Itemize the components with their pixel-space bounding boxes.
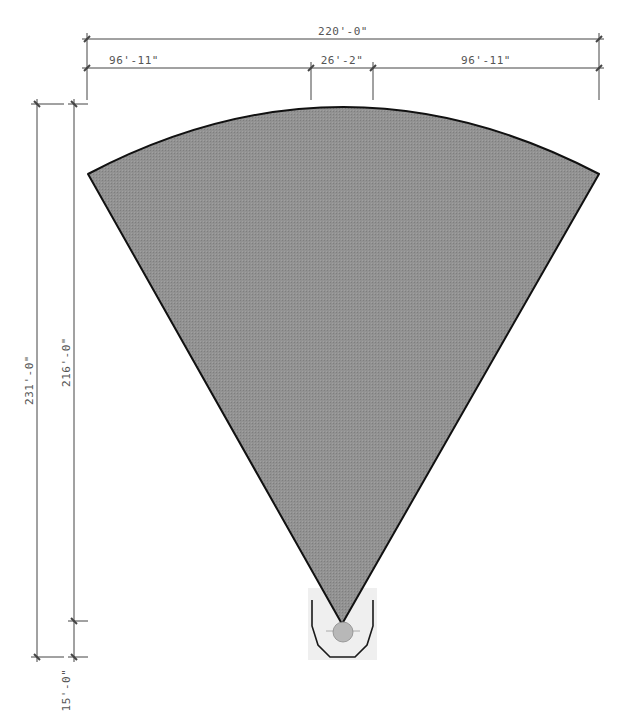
center-segment-label: 26'-2" — [321, 54, 364, 67]
left-segment-label: 96'-11" — [109, 54, 159, 67]
center-circle — [333, 622, 353, 642]
segment-width-dimension — [82, 62, 604, 100]
field-layout-drawing: 220'-0" 96'-11" 26'-2" 96'-11" 231'-0" 2… — [0, 0, 628, 725]
field-sector — [88, 107, 599, 624]
overall-length-label: 231'-0" — [23, 355, 36, 405]
right-segment-label: 96'-11" — [461, 54, 511, 67]
sector-length-label: 216'-0" — [60, 337, 73, 387]
pocket-length-label: 15'-0" — [60, 669, 73, 712]
overall-width-label: 220'-0" — [318, 25, 368, 38]
